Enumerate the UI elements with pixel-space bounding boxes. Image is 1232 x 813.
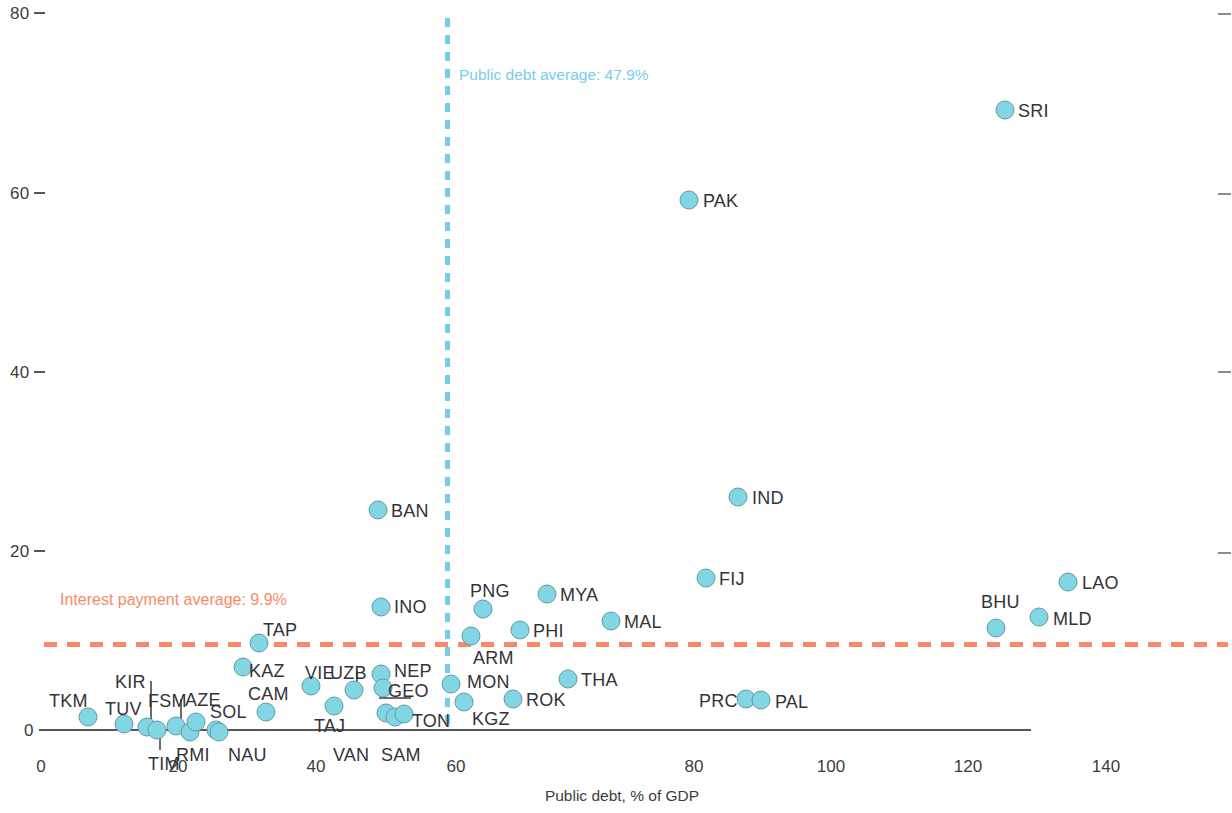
x-axis-title: Public debt, % of GDP	[0, 787, 1232, 805]
data-point-label: PAL	[775, 692, 808, 713]
plot-area: 806040200 Public debt average: 47.9% Int…	[0, 0, 1232, 813]
data-point-marker[interactable]	[559, 670, 578, 689]
data-point-marker[interactable]	[987, 619, 1006, 638]
y-axis-tick-text: 80	[10, 4, 29, 23]
data-point-label: NAU	[228, 745, 267, 766]
label-leader-line	[379, 697, 411, 699]
data-point-label: MYA	[560, 585, 598, 606]
y-axis-tick-label: 40	[10, 363, 45, 383]
data-point-label: GEO	[388, 681, 429, 702]
data-point-marker[interactable]	[372, 598, 391, 617]
data-point-marker[interactable]	[697, 569, 716, 588]
data-point-label: TAP	[263, 620, 297, 641]
data-point-label: BHU	[981, 592, 1020, 613]
x-axis-tick-label: 0	[36, 757, 45, 777]
data-point-marker[interactable]	[996, 101, 1015, 120]
y-axis-tick-label: 20	[10, 542, 45, 562]
data-point-label: THA	[581, 670, 618, 691]
data-point-label: CAM	[248, 684, 289, 705]
data-point-marker[interactable]	[538, 585, 557, 604]
y-axis-right-tick-mark	[1218, 552, 1231, 554]
scatter-chart: 806040200 Public debt average: 47.9% Int…	[0, 0, 1232, 813]
data-point-marker[interactable]	[187, 713, 206, 732]
data-point-label: KGZ	[472, 709, 510, 730]
x-axis-tick-label: 120	[954, 757, 982, 777]
data-point-label: NEP	[394, 661, 432, 682]
data-point-marker[interactable]	[395, 705, 414, 724]
x-axis-title-text: Public debt, % of GDP	[545, 787, 699, 805]
y-axis-tick-text: 60	[10, 184, 29, 203]
data-point-label: FIJ	[719, 569, 745, 590]
data-point-marker[interactable]	[369, 501, 388, 520]
data-point-marker[interactable]	[210, 723, 229, 742]
interest-payment-average-line	[44, 642, 1228, 647]
data-point-label: ARM	[473, 648, 514, 669]
y-axis-tick-text: 0	[24, 721, 34, 740]
data-point-marker[interactable]	[1030, 608, 1049, 627]
data-point-label: MAL	[624, 612, 662, 633]
data-point-label: FSM	[148, 691, 187, 712]
data-point-label: TAJ	[314, 716, 345, 737]
data-point-label: KIR	[115, 672, 146, 693]
y-axis-tick-label: 0	[24, 721, 50, 741]
data-point-label: MLD	[1053, 609, 1092, 630]
public-debt-average-label: Public debt average: 47.9%	[459, 66, 649, 84]
data-point-marker[interactable]	[257, 703, 276, 722]
x-axis-tick-label: 60	[447, 757, 466, 777]
data-point-label: TIM	[148, 754, 180, 775]
data-point-marker[interactable]	[729, 488, 748, 507]
data-point-label: PAK	[703, 191, 738, 212]
x-axis-tick-label: 80	[685, 757, 704, 777]
data-point-marker[interactable]	[325, 697, 344, 716]
data-point-marker[interactable]	[1059, 573, 1078, 592]
y-axis-tick-text: 20	[10, 542, 29, 561]
data-point-marker[interactable]	[462, 627, 481, 646]
data-point-label: PRC	[699, 691, 738, 712]
x-axis-tick-label: 40	[307, 757, 326, 777]
data-point-label: SOL	[210, 702, 247, 723]
data-point-marker[interactable]	[752, 691, 771, 710]
x-axis-tick-label: 140	[1092, 757, 1120, 777]
data-point-label: LAO	[1082, 573, 1119, 594]
y-axis-right-tick-mark	[1218, 13, 1231, 15]
y-axis-tick-mark	[34, 12, 45, 14]
data-point-label: TUV	[105, 699, 142, 720]
y-axis-tick-mark	[34, 550, 45, 552]
data-point-marker[interactable]	[602, 612, 621, 631]
data-point-label: TKM	[49, 691, 88, 712]
data-point-label: VAN	[333, 745, 369, 766]
y-axis-tick-text: 40	[10, 363, 29, 382]
data-point-label: ROK	[526, 690, 566, 711]
data-point-marker[interactable]	[474, 600, 493, 619]
public-debt-average-line	[445, 18, 450, 728]
y-axis-right-tick-mark	[1218, 371, 1231, 373]
data-point-label: PHI	[533, 621, 564, 642]
data-point-label: MON	[467, 672, 510, 693]
data-point-label: KAZ	[249, 661, 285, 682]
y-axis-tick-label: 80	[10, 4, 45, 24]
y-axis-tick-mark	[34, 192, 45, 194]
data-point-label: PNG	[470, 581, 510, 602]
data-point-label: SRI	[1018, 101, 1049, 122]
data-point-marker[interactable]	[511, 621, 530, 640]
data-point-label: IND	[752, 488, 784, 509]
y-axis-tick-mark	[34, 371, 45, 373]
data-point-marker[interactable]	[680, 191, 699, 210]
data-point-label: INO	[394, 597, 427, 618]
data-point-marker[interactable]	[504, 690, 523, 709]
y-axis-right-tick-mark	[1218, 193, 1231, 195]
data-point-marker[interactable]	[148, 721, 167, 740]
data-point-marker[interactable]	[442, 675, 461, 694]
data-point-label: SAM	[381, 745, 421, 766]
data-point-label: RMI	[176, 745, 210, 766]
y-axis-tick-label: 60	[10, 184, 45, 204]
data-point-label: TON	[412, 711, 450, 732]
data-point-label: BAN	[391, 501, 429, 522]
data-point-marker[interactable]	[455, 693, 474, 712]
interest-payment-average-label: Interest payment average: 9.9%	[60, 591, 287, 609]
data-point-label: UZB	[330, 663, 367, 684]
x-axis-tick-label: 100	[817, 757, 845, 777]
